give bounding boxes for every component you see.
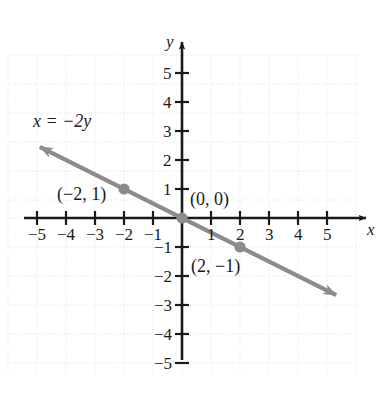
x-tick-label-2: 2 [236,226,245,243]
x-tick-label-neg5: −5 [28,226,46,243]
line-graph-reverse [40,147,336,295]
x-tick-label-4: 4 [294,226,303,243]
y-axis-label: y [166,33,174,50]
y-tick-label-neg3: −3 [154,297,172,314]
x-tick-label-neg3: −3 [86,226,104,243]
data-point-0-0 [176,212,187,223]
x-tick-label-5: 5 [323,226,332,243]
point-label-neg2-1: (−2, 1) [57,185,106,203]
y-tick-label-neg5: −5 [154,355,172,372]
y-tick-label-3: 3 [163,123,172,140]
y-tick-label-4: 4 [163,94,172,111]
y-tick-label-5: 5 [163,65,172,82]
y-tick-label-neg4: −4 [154,326,172,343]
point-label-0-0: (0, 0) [190,190,229,208]
x-tick-label-neg4: −4 [57,226,75,243]
equation-label: x = −2y [33,112,91,130]
x-axis-label: x [367,221,375,238]
data-point-neg2-1 [118,183,129,194]
graph-figure: x = −2y (−2, 1) (0, 0) (2, −1) y x −5 −4… [0,0,391,400]
x-tick-label-1: 1 [207,226,216,243]
y-tick-label-neg1: −1 [154,239,172,256]
y-tick-label-neg2: −2 [154,268,172,285]
y-tick-label-2: 2 [163,152,172,169]
y-tick-label-1: 1 [163,181,172,198]
point-label-2-neg1: (2, −1) [191,257,240,275]
x-tick-label-3: 3 [265,226,274,243]
x-tick-label-neg2: −2 [115,226,133,243]
